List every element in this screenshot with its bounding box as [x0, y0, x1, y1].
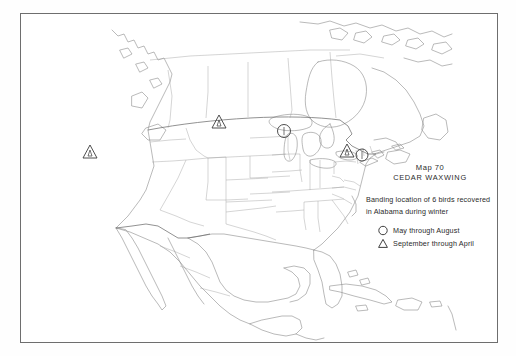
- coastal-islands-1: [120, 48, 132, 58]
- alberta-sask-border: [206, 66, 208, 118]
- lake-erie: [310, 159, 336, 169]
- newfoundland: [422, 114, 448, 140]
- lake-ontario: [336, 151, 357, 160]
- mexico-state-2: [180, 266, 210, 278]
- florida-peninsula: [314, 250, 342, 308]
- ne-ks-border: [250, 176, 290, 178]
- mn-wi-border: [288, 136, 290, 160]
- legend-description-line-2: in Alabama during winter: [366, 206, 494, 218]
- ga-sc-border: [332, 200, 348, 224]
- coastal-islands-3: [150, 78, 162, 88]
- nh-me-border: [370, 146, 372, 152]
- baja-peninsula: [116, 228, 166, 310]
- hispaniola: [396, 298, 422, 310]
- legend-description-line-1: Banding location of 6 birds recovered: [366, 194, 494, 206]
- chesapeake-bay: [352, 196, 356, 216]
- arctic-islands-2: [354, 31, 372, 43]
- yucatan-peninsula: [284, 266, 310, 302]
- ca-nv-border: [160, 160, 186, 210]
- queen-charlotte: [132, 92, 148, 108]
- al-ga-border: [318, 201, 320, 232]
- ks-ok-border: [250, 192, 290, 194]
- arctic-coast: [300, 21, 452, 37]
- tn-ms-al-border: [304, 199, 344, 202]
- ia-mo-border: [272, 170, 302, 172]
- mo-ar-border: [272, 190, 304, 192]
- us-canada-border-west: [148, 117, 340, 130]
- nv-ut-border: [206, 158, 208, 200]
- arctic-islands-5: [432, 42, 452, 54]
- marker-symbols: [83, 115, 368, 161]
- us-gulf-coast: [188, 234, 314, 250]
- legend-entry-triangle: September through April: [376, 237, 494, 250]
- id-mt-border: [186, 128, 208, 158]
- labrador-coast: [372, 68, 424, 154]
- wy-co-border: [226, 178, 268, 180]
- ut-az-line: [206, 199, 248, 200]
- arctic-islands-4: [406, 38, 424, 49]
- gulf-of-california: [168, 238, 204, 304]
- legend-entry-triangle-label: September through April: [393, 239, 474, 248]
- tx-interior: [226, 224, 276, 240]
- arctic-islands-3: [382, 34, 400, 45]
- us-canada-border-east: [340, 120, 376, 154]
- us-pacific-coast: [116, 130, 154, 228]
- wa-or-border: [150, 139, 186, 142]
- pa-ny-border: [334, 161, 356, 162]
- mexico-west-coast: [116, 228, 250, 324]
- or-ca-border: [152, 160, 186, 162]
- co-nm-line: [226, 200, 272, 202]
- vancouver-island: [142, 124, 166, 140]
- va-md-border: [344, 180, 360, 186]
- ok-tx-border: [226, 206, 276, 212]
- nc-va-border: [332, 187, 356, 190]
- jamaica: [356, 305, 368, 311]
- quebec-north: [336, 54, 384, 58]
- lesser-antilles: [448, 306, 456, 330]
- marker-triangle-dakotas: [212, 115, 226, 128]
- lake-huron: [302, 132, 321, 156]
- hudson-strait: [404, 58, 452, 66]
- map-page: Map 70 CEDAR WAXWING Banding location of…: [0, 0, 516, 356]
- arctic-islands-1: [330, 28, 348, 40]
- marker-triangle-nevada: [83, 145, 97, 158]
- great-lakes: [269, 114, 357, 168]
- ms-al-border: [304, 202, 306, 230]
- puerto-rico: [430, 301, 442, 307]
- coastal-islands-2: [136, 62, 148, 72]
- ia-il-border: [300, 154, 302, 182]
- ca-az-border: [160, 210, 204, 226]
- internal-boundaries: [150, 50, 384, 296]
- legend-subtitle: CEDAR WAXWING: [366, 173, 494, 182]
- isthmus: [296, 334, 324, 340]
- ar-la-border: [276, 210, 304, 212]
- legend-entry-circle: May through August: [376, 224, 494, 237]
- james-bay: [319, 124, 334, 148]
- mt-wy-border: [208, 156, 250, 158]
- map-legend: Map 70 CEDAR WAXWING Banding location of…: [366, 163, 494, 250]
- canada-north-line: [150, 50, 350, 60]
- circle-symbol-icon: [376, 225, 390, 236]
- legend-entry-circle-label: May through August: [393, 226, 460, 235]
- bahamas-1: [348, 270, 358, 277]
- legend-title: Map 70: [366, 163, 494, 172]
- alaska-panhandle: [112, 30, 172, 130]
- mexico-gulf-coast: [188, 238, 300, 302]
- triangle-symbol-icon: [376, 238, 390, 249]
- bahamas-2: [360, 278, 370, 285]
- nova-scotia: [386, 150, 410, 164]
- wv-oh-line: [332, 176, 344, 182]
- ontario-quebec-border: [330, 52, 336, 118]
- bc-alberta-border: [168, 70, 172, 128]
- legend-entries: May through August September through Apr…: [366, 224, 494, 250]
- central-america: [250, 316, 302, 336]
- manitoba-ontario-border: [288, 58, 292, 118]
